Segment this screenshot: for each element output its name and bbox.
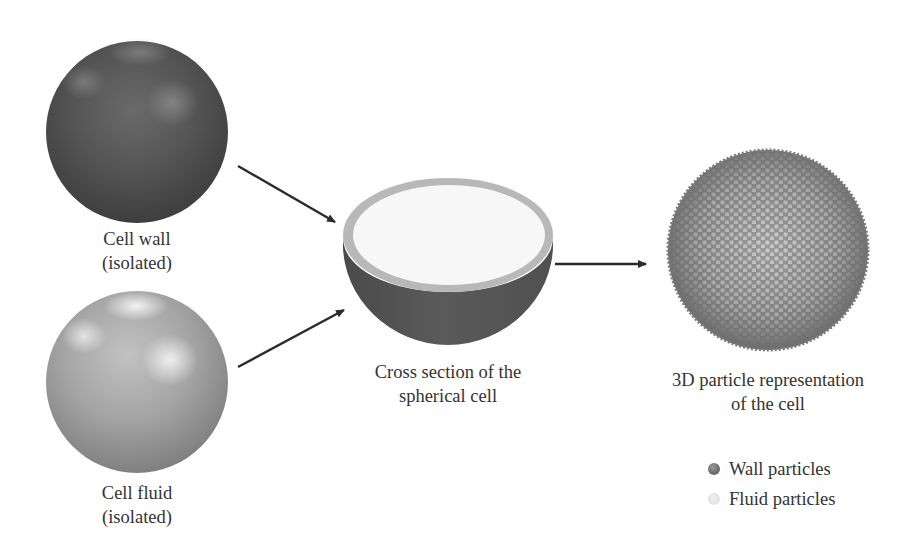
particle-model-label-line1: 3D particle representation — [648, 368, 888, 392]
legend-label-wall: Wall particles — [729, 459, 831, 480]
cell-wall-label: Cell wall (isolated) — [57, 227, 217, 275]
cell-wall-label-line1: Cell wall — [57, 227, 217, 251]
particle-sphere — [668, 150, 868, 350]
particle-model-label: 3D particle representation of the cell — [648, 368, 888, 416]
cross-section-label-line1: Cross section of the — [343, 360, 553, 384]
fluid-particle-icon — [708, 493, 720, 505]
wall-particle-icon — [708, 463, 720, 475]
cell-wall-sphere — [46, 38, 228, 223]
cross-section-label: Cross section of the spherical cell — [343, 360, 553, 408]
cell-wall-label-line2: (isolated) — [57, 251, 217, 275]
arrow-wall-to-section — [238, 166, 335, 222]
legend-item-fluid: Fluid particles — [708, 484, 835, 514]
particle-model-label-line2: of the cell — [648, 392, 888, 416]
cell-fluid-sphere — [46, 291, 228, 473]
legend-item-wall: Wall particles — [708, 454, 835, 484]
cross-section-hemisphere — [343, 178, 553, 345]
cell-fluid-label-line2: (isolated) — [57, 505, 217, 529]
legend: Wall particles Fluid particles — [708, 454, 835, 514]
diagram-figure: Cell wall (isolated) Cell fluid (isolate… — [0, 0, 923, 560]
arrow-fluid-to-section — [238, 310, 344, 367]
legend-label-fluid: Fluid particles — [729, 489, 835, 510]
cross-section-label-line2: spherical cell — [343, 384, 553, 408]
cell-fluid-label-line1: Cell fluid — [57, 481, 217, 505]
cell-fluid-label: Cell fluid (isolated) — [57, 481, 217, 529]
